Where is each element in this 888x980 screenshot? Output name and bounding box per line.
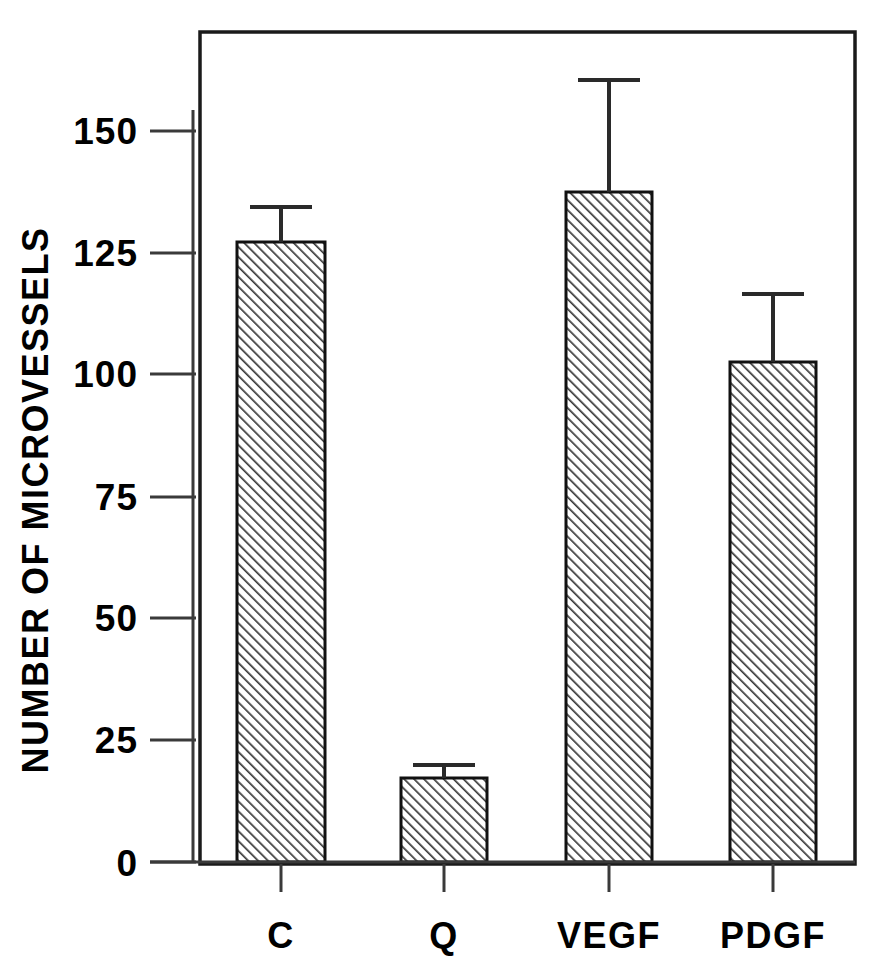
- y-tick-label-0: 0: [116, 843, 138, 884]
- y-tick-label-125: 125: [73, 233, 138, 274]
- bar-chart: 150 125 100 75 50 25 0 NUMBER OF MICROVE…: [0, 0, 888, 980]
- bar-group-pdgf: [730, 294, 816, 862]
- bar-vegf: [566, 192, 652, 862]
- bar-q: [401, 778, 487, 862]
- x-tick-label-pdgf: PDGF: [720, 915, 826, 956]
- y-tick-label-100: 100: [73, 354, 138, 395]
- y-tick-label-150: 150: [73, 111, 138, 152]
- bar-group-c: [237, 207, 325, 862]
- x-tick-group: [281, 864, 773, 892]
- y-tick-label-25: 25: [95, 720, 138, 761]
- x-tick-label-vegf: VEGF: [557, 915, 661, 956]
- bar-c: [237, 242, 325, 862]
- y-tick-label-50: 50: [95, 598, 138, 639]
- x-tick-label-c: C: [267, 915, 295, 956]
- bar-pdgf: [730, 362, 816, 862]
- figure-root: 150 125 100 75 50 25 0 NUMBER OF MICROVE…: [0, 0, 888, 980]
- bar-group-vegf: [566, 80, 652, 862]
- bar-group-q: [401, 765, 487, 862]
- x-tick-label-q: Q: [429, 915, 459, 956]
- y-tick-group: [150, 131, 196, 862]
- y-tick-label-75: 75: [95, 477, 138, 518]
- y-axis-title: NUMBER OF MICROVESSELS: [15, 226, 56, 773]
